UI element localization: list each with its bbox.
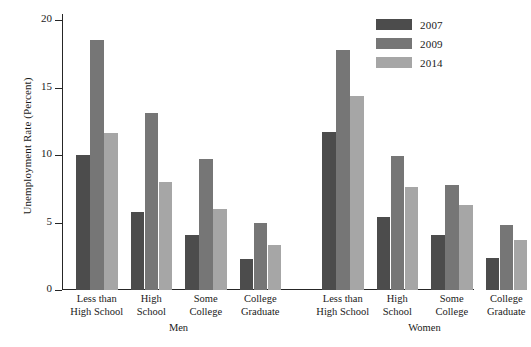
bar: [104, 133, 118, 290]
legend-label: 2007: [420, 19, 443, 31]
y-axis-tick-label: 10: [41, 147, 52, 159]
legend-swatch: [376, 38, 412, 49]
legend-item-2007: 2007: [376, 17, 476, 32]
bar: [213, 209, 227, 290]
bar: [145, 113, 159, 290]
legend: 200720092014: [376, 17, 476, 74]
y-axis-tick-label: 0: [47, 282, 53, 294]
legend-swatch: [376, 57, 412, 68]
bar: [254, 223, 268, 291]
group-label-women: Women: [375, 322, 475, 333]
bar: [350, 96, 364, 290]
bar: [268, 245, 282, 290]
category-label: CollegeGraduate: [466, 293, 531, 318]
bar: [486, 258, 500, 290]
y-axis-tick-label: 15: [41, 80, 52, 92]
legend-label: 2014: [420, 57, 443, 69]
bar: [336, 50, 350, 290]
legend-label: 2009: [420, 38, 443, 50]
legend-item-2014: 2014: [376, 55, 476, 70]
bar: [405, 187, 419, 290]
y-axis-tick: 15: [55, 88, 62, 89]
category-labels: Less thanHigh SchoolHighSchoolSomeColleg…: [62, 293, 474, 323]
y-axis-tick: 20: [55, 20, 62, 21]
category-label-line: Graduate: [466, 306, 531, 319]
y-axis-tick: 10: [55, 155, 62, 156]
bar: [159, 182, 173, 290]
bar: [76, 155, 90, 290]
bar: [431, 235, 445, 290]
category-label-line: College: [220, 293, 300, 306]
group-label-men: Men: [129, 322, 229, 333]
y-axis-tick: 0: [55, 290, 62, 291]
category-label-line: Graduate: [220, 306, 300, 319]
bar: [377, 217, 391, 290]
group-labels: MenWomen: [62, 322, 474, 342]
bar: [459, 205, 473, 290]
y-axis-tick: 5: [55, 223, 62, 224]
bar: [131, 212, 145, 290]
bar: [445, 185, 459, 290]
bar: [514, 240, 528, 290]
y-axis-tick-label: 20: [41, 12, 52, 24]
bar: [185, 235, 199, 290]
bar: [240, 259, 254, 290]
bar: [322, 132, 336, 290]
legend-swatch: [376, 19, 412, 30]
category-label: CollegeGraduate: [220, 293, 300, 318]
bar: [391, 156, 405, 290]
bar: [500, 225, 514, 290]
category-label-line: College: [466, 293, 531, 306]
legend-item-2009: 2009: [376, 36, 476, 51]
y-axis-title: Unemployment Rate (Percent): [21, 46, 33, 246]
bar: [199, 159, 213, 290]
bar: [90, 40, 104, 290]
y-axis-tick-label: 5: [47, 215, 53, 227]
